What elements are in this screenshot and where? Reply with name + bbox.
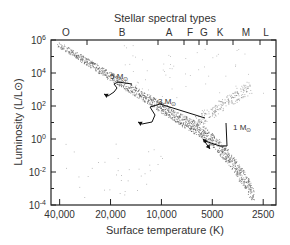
spectral-type-label: F	[187, 27, 193, 38]
x-tick-label: 5000	[201, 209, 224, 220]
spectral-type-label: B	[119, 27, 126, 38]
spectral-type-label: L	[263, 27, 269, 38]
x-tick-label: 10,000	[146, 209, 177, 220]
evolutionary-tracks: 5 M⊙3 M⊙1 M⊙	[104, 72, 251, 149]
spectral-type-ticks: OBAFGKML	[62, 27, 269, 45]
hr-diagram: 5 M⊙3 M⊙1 M⊙ 40,00020,00010,00050002500 …	[0, 0, 290, 245]
spectral-type-label: M	[242, 27, 250, 38]
y-tick-label: 100	[31, 133, 46, 145]
x-tick-label: 2500	[252, 209, 275, 220]
arrow-icon	[206, 144, 210, 149]
track-mass-label: 5 M⊙	[110, 72, 128, 82]
track-mass-label: 1 M⊙	[233, 123, 251, 133]
y-tick-label: 10-2	[29, 166, 46, 178]
sun-position-marker	[203, 139, 207, 143]
y-tick-label: 102	[31, 100, 46, 112]
y-axis-label: Luminosity (L/L⊙)	[12, 78, 24, 165]
star-points	[57, 42, 264, 200]
spectral-type-label: A	[166, 27, 173, 38]
spectral-type-label: K	[217, 27, 224, 38]
x-tick-label: 40,000	[44, 209, 75, 220]
x-axis-label: Surface temperature (K)	[106, 224, 224, 236]
spectral-type-label: O	[62, 27, 70, 38]
y-tick-label: 106	[31, 34, 46, 46]
top-axis-title: Stellar spectral types	[114, 12, 217, 24]
track-mass-label: 3 M⊙	[158, 97, 176, 107]
y-tick-label: 104	[31, 67, 46, 79]
x-axis-ticks: 40,00020,00010,00050002500	[44, 199, 274, 220]
x-tick-label: 20,000	[95, 209, 126, 220]
spectral-type-label: G	[200, 27, 208, 38]
